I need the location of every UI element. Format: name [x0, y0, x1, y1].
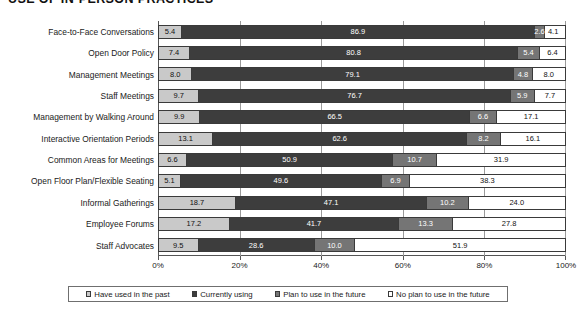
bar-value-label: 5.4: [523, 49, 533, 57]
bar-row: 6.650.910.731.9: [158, 153, 566, 167]
bar-row: 13.162.68.216.1: [158, 132, 566, 146]
legend-label: Have used in the past: [94, 290, 169, 299]
bar-value-label: 31.9: [494, 156, 509, 164]
bar-segment-no-plan-to-use: 16.1: [500, 133, 565, 145]
bar-value-label: 51.9: [453, 242, 468, 250]
x-axis-tick-label: 80%: [476, 261, 492, 270]
legend-item-no-plan-to-use[interactable]: No plan to use in the future: [388, 290, 490, 299]
bar-segment-plan-to-use: 10.7: [392, 154, 435, 166]
bar-segment-currently-using: 47.1: [235, 197, 426, 209]
bar-value-label: 8.2: [478, 135, 488, 143]
bar-value-label: 28.6: [249, 242, 264, 250]
bar-segment-have-used-past: 5.4: [159, 26, 181, 38]
bar-segment-currently-using: 86.9: [181, 26, 534, 38]
bar-row: 9.776.75.97.7: [158, 89, 566, 103]
bar-segment-plan-to-use: 10.0: [314, 239, 355, 251]
bar-segment-plan-to-use: 10.2: [426, 197, 467, 209]
bar-value-label: 66.5: [327, 113, 342, 121]
bar-segment-currently-using: 49.6: [180, 175, 381, 187]
legend-label: Currently using: [200, 290, 252, 299]
category-label: Staff Advocates: [2, 241, 154, 251]
bar-value-label: 49.6: [274, 177, 289, 185]
bar-value-label: 4.1: [548, 28, 558, 36]
bar-value-label: 50.9: [282, 156, 297, 164]
bar-segment-no-plan-to-use: 51.9: [354, 239, 565, 251]
bar-segment-have-used-past: 9.7: [159, 90, 198, 102]
x-axis-tick-label: 0%: [152, 261, 164, 270]
category-label: Face-to-Face Conversations: [2, 27, 154, 37]
legend-item-plan-to-use[interactable]: Plan to use in the future: [275, 290, 365, 299]
category-label: Employee Forums: [2, 219, 154, 229]
bar-row: 9.528.610.051.9: [158, 238, 566, 252]
x-axis-line: [158, 255, 566, 256]
bar-value-label: 62.6: [332, 135, 347, 143]
x-tick-100: [565, 256, 566, 260]
bar-segment-plan-to-use: 13.3: [398, 218, 452, 230]
bar-segment-no-plan-to-use: 38.3: [409, 175, 564, 187]
bar-segment-no-plan-to-use: 4.1: [544, 26, 561, 38]
bar-value-label: 5.4: [165, 28, 175, 36]
bar-value-label: 7.4: [169, 49, 179, 57]
bar-segment-currently-using: 50.9: [186, 154, 393, 166]
plot-area: 5.486.92.64.17.480.85.46.48.079.14.88.09…: [158, 21, 566, 256]
bar-value-label: 6.9: [390, 177, 400, 185]
bar-value-label: 5.9: [517, 92, 527, 100]
category-label: Common Areas for Meetings: [2, 155, 154, 165]
category-label: Management by Walking Around: [2, 112, 154, 122]
bar-value-label: 47.1: [324, 199, 339, 207]
bar-value-label: 27.8: [502, 220, 517, 228]
x-axis-tick-label: 100%: [556, 261, 576, 270]
bar-segment-have-used-past: 9.9: [159, 111, 199, 123]
bar-segment-have-used-past: 5.1: [159, 175, 180, 187]
bar-segment-plan-to-use: 6.9: [381, 175, 409, 187]
x-axis-tick-label: 20%: [232, 261, 248, 270]
bar-value-label: 7.7: [545, 92, 555, 100]
legend-item-currently-using[interactable]: Currently using: [192, 290, 252, 299]
bar-segment-plan-to-use: 6.6: [469, 111, 496, 123]
category-label: Informal Gatherings: [2, 198, 154, 208]
bar-segment-currently-using: 41.7: [229, 218, 398, 230]
bar-row: 18.747.110.224.0: [158, 196, 566, 210]
x-axis-tick-label: 40%: [313, 261, 329, 270]
bar-value-label: 16.1: [525, 135, 540, 143]
category-label: Open Floor Plan/Flexible Seating: [2, 176, 154, 186]
x-axis-tick-label: 60%: [395, 261, 411, 270]
bar-value-label: 10.0: [327, 242, 342, 250]
bar-segment-no-plan-to-use: 6.4: [539, 47, 565, 59]
bar-row: 5.486.92.64.1: [158, 25, 566, 39]
bar-segment-no-plan-to-use: 7.7: [534, 90, 565, 102]
bar-value-label: 6.6: [167, 156, 177, 164]
bar-segment-no-plan-to-use: 17.1: [496, 111, 565, 123]
bar-value-label: 17.1: [524, 113, 539, 121]
legend-label: No plan to use in the future: [396, 290, 490, 299]
bar-value-label: 79.1: [345, 71, 360, 79]
bar-value-label: 9.7: [173, 92, 183, 100]
bar-value-label: 80.8: [346, 49, 361, 57]
bar-segment-have-used-past: 7.4: [159, 47, 189, 59]
bar-value-label: 9.5: [173, 242, 183, 250]
bar-segment-have-used-past: 8.0: [159, 68, 191, 80]
bar-value-label: 13.1: [178, 135, 193, 143]
bar-row: 5.149.66.938.3: [158, 174, 566, 188]
bar-segment-currently-using: 28.6: [198, 239, 314, 251]
category-label: Open Door Policy: [2, 48, 154, 58]
bar-value-label: 41.7: [307, 220, 322, 228]
bar-value-label: 9.9: [174, 113, 184, 121]
bar-segment-plan-to-use: 5.9: [510, 90, 534, 102]
bar-value-label: 38.3: [480, 177, 495, 185]
bar-segment-have-used-past: 17.2: [159, 218, 229, 230]
bar-value-label: 8.0: [544, 71, 554, 79]
bar-segment-no-plan-to-use: 8.0: [532, 68, 564, 80]
legend-item-have-used-past[interactable]: Have used in the past: [86, 290, 169, 299]
category-axis-labels: Face-to-Face ConversationsOpen Door Poli…: [0, 21, 154, 256]
x-tick-40: [321, 256, 322, 260]
bar-row: 7.480.85.46.4: [158, 46, 566, 60]
legend-label: Plan to use in the future: [283, 290, 365, 299]
category-label: Interactive Orientation Periods: [2, 134, 154, 144]
x-tick-60: [403, 256, 404, 260]
bar-value-label: 5.1: [164, 177, 174, 185]
bar-segment-currently-using: 79.1: [191, 68, 512, 80]
bar-segment-have-used-past: 13.1: [159, 133, 212, 145]
chart-title: USE OF IN-PERSON PRACTICES: [8, 0, 214, 6]
bar-value-label: 10.7: [407, 156, 422, 164]
